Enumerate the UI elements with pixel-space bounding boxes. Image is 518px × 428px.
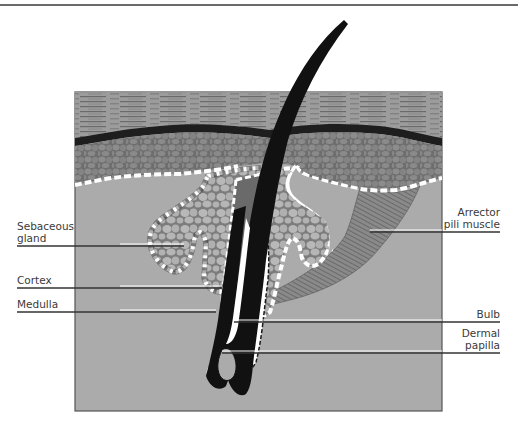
label-cortex: Cortex (17, 274, 52, 286)
hair-follicle-diagram (0, 0, 518, 428)
label-line: papilla (462, 339, 500, 351)
label-line: pili muscle (444, 218, 500, 230)
label-medulla: Medulla (17, 298, 58, 310)
label-line: gland (17, 232, 74, 244)
label-bulb: Bulb (477, 308, 500, 320)
label-dermal-papilla: Dermal papilla (462, 327, 500, 351)
label-line: Arrector (444, 206, 500, 218)
label-sebaceous-gland: Sebaceous gland (17, 220, 74, 244)
label-arrector-pili-muscle: Arrector pili muscle (444, 206, 500, 230)
label-line: Dermal (462, 327, 500, 339)
label-line: Sebaceous (17, 220, 74, 232)
